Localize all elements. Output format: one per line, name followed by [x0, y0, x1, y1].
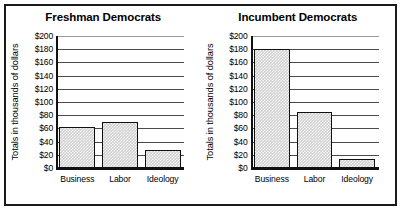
y-axis-tick-label: $180	[229, 44, 247, 54]
y-axis-tick-label: $0	[238, 163, 247, 173]
bar-labor	[102, 122, 138, 168]
y-axis-tick-label: $120	[35, 84, 53, 94]
bar-business	[59, 127, 95, 168]
x-axis-label-ideology: Ideology	[147, 174, 179, 184]
y-axis-tick-label: $60	[39, 123, 53, 133]
y-axis-tick-label: $160	[229, 57, 247, 67]
y-axis-tick-label: $80	[234, 110, 248, 120]
y-axis-tick-label: $60	[234, 123, 248, 133]
y-axis-tick-label: $20	[234, 150, 248, 160]
x-axis-label-business: Business	[60, 174, 94, 184]
chart-panel-freshman-democrats: Freshman Democrats Totals in thousands o…	[6, 6, 201, 204]
x-axis-line-left	[56, 167, 184, 170]
y-axis-tick-label: $80	[39, 110, 53, 120]
bar-labor	[297, 112, 333, 168]
plot-area-left	[56, 36, 184, 168]
y-axis-title-right-text: Totals in thousands of dollars	[205, 44, 215, 161]
x-axis-label-labor: Labor	[109, 174, 130, 184]
chart-title-freshman-democrats: Freshman Democrats	[6, 11, 201, 23]
y-axis-tick-label: $120	[229, 84, 247, 94]
y-axis-tick-label: $140	[35, 71, 53, 81]
y-axis-tick-label: $200	[229, 31, 247, 41]
y-axis-line-left	[56, 36, 58, 168]
y-axis-tick-label: $40	[234, 137, 248, 147]
y-axis-tick-labels-left: $200$180$160$140$120$100$80$60$40$20$0	[20, 36, 53, 168]
x-axis-line-right	[251, 167, 379, 170]
x-axis-category-labels-left: BusinessLaborIdeology	[56, 174, 184, 188]
y-axis-tick-label: $180	[35, 44, 53, 54]
y-axis-tick-label: $40	[39, 137, 53, 147]
y-axis-title-left-text: Totals in thousands of dollars	[11, 44, 21, 161]
bar-group-left	[56, 36, 184, 168]
plot-area-right	[251, 36, 379, 168]
x-axis-label-ideology: Ideology	[341, 174, 373, 184]
y-axis-tick-label: $200	[35, 31, 53, 41]
x-axis-label-labor: Labor	[304, 174, 325, 184]
bar-business	[254, 49, 290, 168]
bar-ideology	[145, 150, 181, 168]
y-axis-tick-label: $100	[229, 97, 247, 107]
y-axis-line-right	[251, 36, 253, 168]
y-axis-tick-label: $0	[44, 163, 53, 173]
x-axis-label-business: Business	[255, 174, 289, 184]
y-axis-tick-label: $20	[39, 150, 53, 160]
chart-panel-incumbent-democrats: Incumbent Democrats Totals in thousands …	[201, 6, 396, 204]
x-axis-category-labels-right: BusinessLaborIdeology	[251, 174, 379, 188]
chart-title-incumbent-democrats: Incumbent Democrats	[201, 11, 396, 23]
y-axis-tick-label: $140	[229, 71, 247, 81]
bar-group-right	[251, 36, 379, 168]
y-axis-tick-label: $160	[35, 57, 53, 67]
y-axis-tick-label: $100	[35, 97, 53, 107]
y-axis-tick-labels-right: $200$180$160$140$120$100$80$60$40$20$0	[215, 36, 248, 168]
figure-frame: Freshman Democrats Totals in thousands o…	[4, 4, 397, 206]
